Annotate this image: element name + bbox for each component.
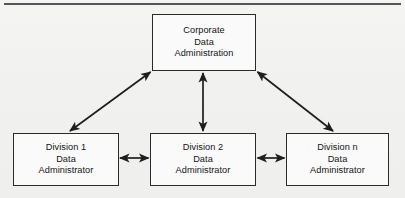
node-line-2: Data [193,154,213,166]
connector-corporate-to-division-n [258,72,334,131]
connector-corporate-to-division1 [70,72,151,131]
node-line-3: Administrator [310,165,365,177]
node-line-1: Division n [317,142,357,154]
node-line-2: Data [56,154,76,166]
node-line-1: Corporate [183,25,224,37]
node-line-2: Data [328,154,348,166]
node-corporate-data-administration[interactable]: Corporate Data Administration [152,14,256,71]
node-division-n-data-administrator[interactable]: Division n Data Administrator [286,133,389,186]
diagram-figure: Corporate Data Administration Division 1… [0,0,405,198]
node-line-2: Data [194,37,214,49]
node-line-3: Administrator [39,165,94,177]
node-line-3: Administration [175,48,234,60]
node-line-1: Division 1 [46,142,86,154]
node-division-1-data-administrator[interactable]: Division 1 Data Administrator [13,133,119,186]
node-division-2-data-administrator[interactable]: Division 2 Data Administrator [150,133,256,186]
node-line-3: Administrator [176,165,231,177]
node-line-1: Division 2 [183,142,223,154]
